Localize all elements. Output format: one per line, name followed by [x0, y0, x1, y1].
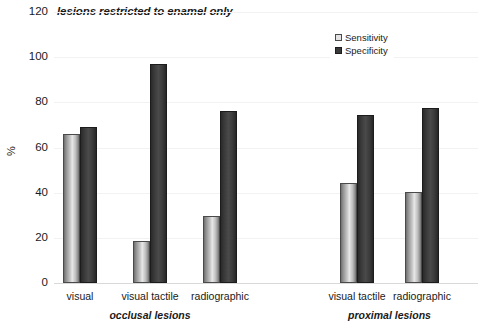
y-tick-80: 80 — [14, 97, 48, 109]
group-label-1: proximal lesions — [348, 309, 431, 321]
x-axis-line — [54, 283, 478, 284]
bar-sensitivity-2 — [203, 216, 220, 283]
bar-sensitivity-3 — [340, 183, 357, 283]
bar-sensitivity-0 — [63, 134, 80, 283]
bar-specificity-2 — [220, 111, 237, 283]
bar-specificity-4 — [422, 108, 439, 283]
y-tick-0: 0 — [14, 277, 48, 289]
category-label-4: radiographic — [393, 290, 451, 302]
bar-specificity-3 — [357, 115, 374, 283]
bar-sensitivity-1 — [133, 241, 150, 283]
chart-legend: Sensitivity Specificity — [330, 28, 394, 61]
bar-specificity-0 — [80, 127, 97, 283]
category-label-3: visual tactile — [328, 290, 385, 302]
y-axis-tick-labels: 120100806040200 — [14, 0, 48, 330]
sensitivity-swatch-icon — [335, 34, 342, 41]
legend-item-sensitivity: Sensitivity — [335, 31, 388, 44]
plot-area — [54, 12, 478, 283]
legend-label: Specificity — [345, 46, 388, 56]
legend-item-specificity: Specificity — [335, 44, 388, 57]
y-tick-20: 20 — [14, 232, 48, 244]
bar-specificity-1 — [150, 64, 167, 283]
group-label-0: occlusal lesions — [109, 309, 190, 321]
y-tick-40: 40 — [14, 187, 48, 199]
category-label-2: radiographic — [191, 290, 249, 302]
bar-sensitivity-4 — [405, 192, 422, 283]
category-label-0: visual — [67, 290, 94, 302]
legend-label: Sensitivity — [345, 33, 388, 43]
y-tick-60: 60 — [14, 142, 48, 154]
bar-chart: lesions restricted to enamel only % 1201… — [0, 0, 480, 330]
y-tick-100: 100 — [14, 51, 48, 63]
specificity-swatch-icon — [335, 47, 342, 54]
category-label-1: visual tactile — [121, 290, 178, 302]
y-tick-120: 120 — [14, 6, 48, 18]
